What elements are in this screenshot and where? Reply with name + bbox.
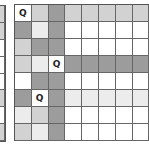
board-cell	[15, 107, 32, 124]
board-cell	[133, 124, 149, 141]
left-board-cell	[0, 107, 5, 124]
board-cell	[32, 5, 49, 22]
board-cell	[49, 39, 66, 56]
board-cell	[65, 22, 82, 39]
left-board-cell	[0, 57, 5, 74]
board-cell	[82, 5, 99, 22]
board-cell	[133, 73, 149, 90]
board-cell	[82, 124, 99, 141]
board-cell	[82, 39, 99, 56]
board-cell	[32, 56, 49, 73]
board-cell	[49, 124, 66, 141]
board-cell	[116, 90, 133, 107]
board-cell	[65, 107, 82, 124]
board-cell	[116, 22, 133, 39]
queen-cell: Q	[15, 5, 32, 22]
board-cell	[15, 22, 32, 39]
board-cell	[133, 39, 149, 56]
board-cell	[99, 73, 116, 90]
board-cell	[65, 56, 82, 73]
board-cell	[65, 39, 82, 56]
board-cell	[49, 22, 66, 39]
left-board-cell	[0, 23, 5, 40]
board-cell	[32, 73, 49, 90]
board-cell	[116, 56, 133, 73]
board-cell	[15, 39, 32, 56]
left-board-cell	[0, 90, 5, 107]
board-cell	[116, 107, 133, 124]
board-cell	[49, 73, 66, 90]
board-cell	[49, 107, 66, 124]
left-board-cell	[0, 6, 5, 23]
board-cell	[65, 73, 82, 90]
queen-icon: Q	[19, 8, 27, 18]
board-cell	[32, 124, 49, 141]
board-cell	[32, 39, 49, 56]
queens-board: QQQ	[14, 4, 149, 141]
board-cell	[133, 107, 149, 124]
board-cell	[65, 90, 82, 107]
board-cell	[15, 73, 32, 90]
board-cell	[99, 39, 116, 56]
board-cell	[82, 90, 99, 107]
board-cell	[32, 22, 49, 39]
left-board-cell	[0, 40, 5, 57]
board-cell	[82, 73, 99, 90]
board-cell	[99, 5, 116, 22]
board-cell	[99, 22, 116, 39]
board-cell	[116, 39, 133, 56]
board-cell	[32, 107, 49, 124]
board-cell	[82, 107, 99, 124]
board-cell	[133, 90, 149, 107]
board-cell	[133, 22, 149, 39]
left-board-cell	[0, 124, 5, 141]
board-cell	[15, 56, 32, 73]
board-cell	[99, 90, 116, 107]
board-cell	[65, 5, 82, 22]
queen-icon: Q	[53, 59, 61, 69]
left-board-cell	[0, 74, 5, 91]
board-cell	[133, 5, 149, 22]
board-cell	[82, 22, 99, 39]
board-cell	[49, 5, 66, 22]
board-cell	[82, 56, 99, 73]
board-cell	[15, 124, 32, 141]
board-cell	[116, 73, 133, 90]
board-cell	[116, 124, 133, 141]
board-cell	[99, 107, 116, 124]
board-cell	[49, 90, 66, 107]
board-cell	[99, 56, 116, 73]
board-cell	[133, 56, 149, 73]
partial-left-board	[0, 5, 6, 142]
board-cell	[116, 5, 133, 22]
board-cell	[99, 124, 116, 141]
board-cell	[65, 124, 82, 141]
board-cell	[15, 90, 32, 107]
queen-cell: Q	[49, 56, 66, 73]
queen-icon: Q	[36, 93, 44, 103]
queen-cell: Q	[32, 90, 49, 107]
